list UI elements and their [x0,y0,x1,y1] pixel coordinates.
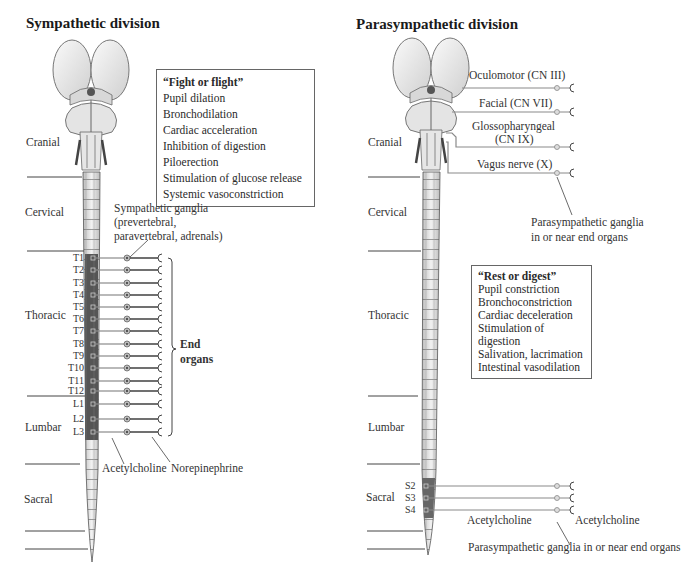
effect-item: Cardiac deceleration [478,309,585,322]
para-ganglia-line: in or near end organs [531,230,644,245]
norepinephrine-pointer [152,437,170,462]
effect-item: Piloerection [163,154,308,170]
end-organs-label: End organs [180,337,213,367]
effect-item: Bronchodilation [163,106,308,122]
segment-label: T10 [68,363,84,373]
effect-item: Inhibition of digestion [163,138,308,154]
acetylcholine-pointer [112,438,124,464]
ganglia-label-line: paravertebral, adrenals) [114,229,223,243]
end-organs-line: organs [180,352,213,367]
para-region-thoracic: Thoracic [368,310,409,322]
nerve-facial: Facial (CN VII) [479,98,552,110]
segment-label: T6 [73,314,84,324]
segment-label: S3 [405,493,416,503]
segment-label: T8 [73,339,84,349]
effect-item: Cardiac acceleration [163,122,308,138]
sym-region-lumbar: Lumbar [25,422,61,434]
segment-label: T3 [73,278,84,288]
fight-or-flight-box: “Fight or flight” Pupil dilation Broncho… [156,69,315,207]
para-region-sacral: Sacral [366,492,395,504]
nerve-oculomotor: Oculomotor (CN III) [469,70,565,82]
sym-postganglionic-nt: Norepinephrine [171,463,243,475]
segment-label: T7 [73,326,84,336]
segment-label: L3 [73,427,84,437]
effect-item: Pupil constriction [478,283,585,296]
effect-item: Pupil dilation [163,90,308,106]
segment-label: L2 [73,414,84,424]
ganglia-label-line: Sympathetic ganglia [114,201,223,215]
segment-label: S4 [405,505,416,515]
sym-region-cervical: Cervical [25,207,64,219]
sym-region-sacral: Sacral [24,494,53,506]
para-region-cranial: Cranial [368,137,402,149]
parasympathetic-brainstem [393,38,469,170]
para-region-cervical: Cervical [368,207,407,219]
segment-label: T9 [73,351,84,361]
effect-item: Systemic vasoconstriction [163,186,308,202]
para-region-lumbar: Lumbar [368,422,404,434]
segment-label: T5 [73,302,84,312]
sym-preganglionic-nt: Acetylcholine [102,463,167,475]
sympathetic-title: Sympathetic division [26,15,160,32]
segment-label: T4 [73,290,84,300]
para-ganglia-label-bottom: Parasympathetic ganglia in or near end o… [468,542,680,554]
rest-or-digest-box: “Rest or digest” Pupil constriction Bron… [471,265,592,379]
sympathetic-fibers [91,254,162,436]
fight-or-flight-heading: “Fight or flight” [163,74,308,90]
nerve-vagus: Vagus nerve (X) [477,159,552,171]
segment-label: L1 [73,399,84,409]
sympathetic-ganglia-label: Sympathetic ganglia (prevertebral, parav… [114,201,223,243]
sym-region-cranial: Cranial [26,137,60,149]
effect-item: Bronchoconstriction [478,296,585,309]
para-preganglionic-nt: Acetylcholine [467,515,532,527]
para-ganglia-label-top: Parasympathetic ganglia in or near end o… [531,215,644,245]
sympathetic-brainstem [53,40,129,170]
sym-region-thoracic: Thoracic [25,310,66,322]
para-postganglionic-nt: Acetylcholine [575,515,640,527]
end-organs-line: End [180,337,213,352]
sympathetic-spinal-cord [83,172,100,562]
segment-label: T1 [73,253,84,263]
segment-label: S2 [405,481,416,491]
para-ganglia-pointer-top [557,177,572,215]
segment-label: T12 [68,386,84,396]
effect-item: Salivation, lacrimation [478,348,585,361]
effect-item: Stimulation of glucose release [163,170,308,186]
effect-item: Intestinal vasodilation [478,361,585,374]
ganglia-label-line: (prevertebral, [114,215,223,229]
nerve-glossopharyngeal: Glossopharyngeal [472,121,555,133]
rest-or-digest-heading: “Rest or digest” [478,270,585,283]
parasympathetic-title: Parasympathetic division [356,16,518,33]
nerve-glossopharyngeal-cn: (CN IX) [495,134,534,146]
para-ganglia-line: Parasympathetic ganglia [531,215,644,230]
end-organs-bracket [168,258,176,436]
effect-item: Stimulation of digestion [478,322,585,348]
segment-label: T2 [73,265,84,275]
